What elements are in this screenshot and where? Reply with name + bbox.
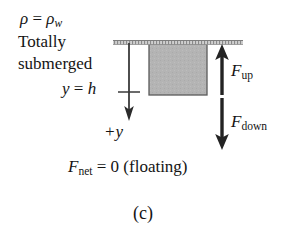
figure-caption: (c)	[0, 204, 286, 222]
state-label-line-1: Totally	[18, 33, 66, 50]
water-surface-line	[113, 41, 243, 45]
density-equals: =	[28, 9, 46, 28]
buoyancy-figure-c: ρ = ρw Totally submerged y = h +y Fup Fd…	[0, 0, 286, 236]
density-symbol: ρ	[20, 9, 28, 28]
net-force-value: = 0 (floating)	[93, 157, 188, 176]
force-down-label: Fdown	[231, 113, 267, 130]
submerged-block	[149, 44, 207, 95]
depth-equals: =	[70, 79, 88, 98]
force-down-subscript: down	[241, 120, 267, 133]
net-force-subscript: net	[78, 165, 92, 178]
force-up-label: Fup	[231, 62, 253, 79]
density-annotation: ρ = ρw	[20, 10, 62, 27]
depth-symbol: y	[62, 79, 70, 98]
depth-label: y = h	[62, 80, 96, 97]
force-up-symbol: F	[231, 61, 241, 80]
force-down-symbol: F	[231, 112, 241, 131]
net-force-equation: Fnet = 0 (floating)	[68, 158, 188, 175]
depth-value: h	[88, 79, 97, 98]
state-label-line-2: submerged	[18, 55, 92, 72]
force-up-subscript: up	[241, 69, 253, 82]
density-value-subscript: w	[54, 17, 62, 30]
y-axis-label: +y	[104, 123, 123, 140]
net-force-symbol: F	[68, 157, 78, 176]
